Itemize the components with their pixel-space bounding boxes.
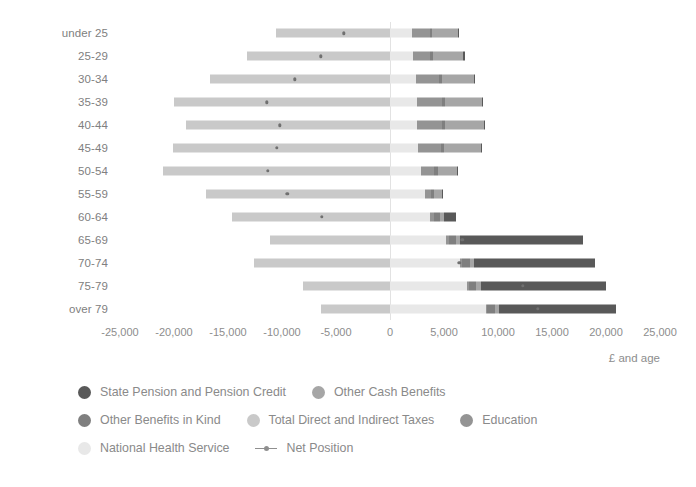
stacked-bar <box>120 258 660 267</box>
bar-segment <box>206 189 390 198</box>
bar-segment <box>390 144 418 153</box>
bar-segment <box>232 212 390 221</box>
legend-swatch-icon <box>78 442 91 455</box>
bar-segment <box>484 121 485 130</box>
stacked-bar <box>120 75 660 84</box>
stacked-bar <box>120 144 660 153</box>
stacked-bar <box>120 189 660 198</box>
bar-segment <box>421 166 434 175</box>
legend-label: Net Position <box>286 441 353 455</box>
legend-item[interactable]: Education <box>460 413 537 427</box>
legend-item[interactable]: State Pension and Pension Credit <box>78 385 286 399</box>
bar-row: 65-69 <box>120 228 660 251</box>
bar-segment <box>276 29 390 38</box>
legend-swatch-icon <box>78 386 91 399</box>
bar-segment <box>390 258 460 267</box>
axis-title: £ and age <box>609 352 660 364</box>
legend-item[interactable]: National Health Service <box>78 441 229 455</box>
bar-segment <box>460 235 583 244</box>
stacked-bar <box>120 281 660 290</box>
bar-segment <box>474 258 595 267</box>
bar-segment <box>425 189 431 198</box>
y-axis-label: 75-79 <box>78 280 108 292</box>
y-axis-label: 25-29 <box>78 50 108 62</box>
bar-segment <box>390 52 413 61</box>
y-axis-label: 40-44 <box>78 119 108 131</box>
bar-row: 40-44 <box>120 114 660 137</box>
bar-row: over 79 <box>120 297 660 320</box>
bar-segment <box>254 258 390 267</box>
legend-label: Other Benefits in Kind <box>100 413 221 427</box>
y-axis-label: 35-39 <box>78 96 108 108</box>
bar-segment <box>390 29 412 38</box>
bar-segment <box>445 121 484 130</box>
legend-swatch-icon <box>78 414 91 427</box>
stacked-bar <box>120 121 660 130</box>
bar-row: 60-64 <box>120 205 660 228</box>
bar-segment <box>303 281 390 290</box>
bar-segment <box>186 121 390 130</box>
x-axis-tick-label: 25,000 <box>643 326 677 338</box>
stacked-bar <box>120 29 660 38</box>
bar-segment <box>438 166 457 175</box>
y-axis-label: 70-74 <box>78 257 108 269</box>
chart-container: under 2525-2930-3435-3940-4445-4950-5455… <box>0 0 696 487</box>
stacked-bar <box>120 98 660 107</box>
bar-segment <box>433 52 463 61</box>
x-axis-tick-label: -25,000 <box>101 326 138 338</box>
bar-segment <box>457 166 458 175</box>
legend-item[interactable]: Net Position <box>255 441 353 455</box>
bar-row: 75-79 <box>120 274 660 297</box>
legend-row: National Health ServiceNet Position <box>78 434 658 462</box>
legend-label: Total Direct and Indirect Taxes <box>269 413 435 427</box>
stacked-bar <box>120 52 660 61</box>
bar-segment <box>434 189 442 198</box>
x-axis-tick-label: 0 <box>387 326 393 338</box>
bar-segment <box>321 304 390 313</box>
bar-segment <box>482 98 483 107</box>
legend-row: State Pension and Pension CreditOther Ca… <box>78 378 658 406</box>
bar-segment <box>481 281 606 290</box>
y-axis-label: 50-54 <box>78 165 108 177</box>
bar-segment <box>463 52 464 61</box>
stacked-bar <box>120 212 660 221</box>
bar-segment <box>390 121 417 130</box>
legend-item[interactable]: Other Benefits in Kind <box>78 413 221 427</box>
bar-segment <box>390 189 425 198</box>
bar-segment <box>270 235 390 244</box>
bar-segment <box>444 212 456 221</box>
x-axis-tick-label: 10,000 <box>481 326 515 338</box>
y-axis-label: 65-69 <box>78 234 108 246</box>
bar-segment <box>413 52 430 61</box>
bar-segment <box>390 212 430 221</box>
y-axis-label: over 79 <box>69 303 108 315</box>
y-axis-label: 45-49 <box>78 142 108 154</box>
bar-segment <box>390 304 486 313</box>
bar-segment <box>487 304 495 313</box>
bar-segment <box>390 166 421 175</box>
bar-segment <box>445 98 482 107</box>
y-axis-label: 30-34 <box>78 73 108 85</box>
bar-segment <box>390 281 467 290</box>
legend-label: Other Cash Benefits <box>334 385 446 399</box>
bar-segment <box>412 29 430 38</box>
bar-segment <box>173 144 390 153</box>
bar-row: 25-29 <box>120 45 660 68</box>
bar-segment <box>474 75 475 84</box>
legend-item[interactable]: Other Cash Benefits <box>312 385 446 399</box>
x-axis-tick-label: -5,000 <box>320 326 351 338</box>
stacked-bar <box>120 166 660 175</box>
x-axis: -25,000-20,000-15,000-10,000-5,00005,000… <box>120 326 660 342</box>
bar-segment <box>174 98 390 107</box>
bar-segment <box>442 189 443 198</box>
legend-label: Education <box>482 413 537 427</box>
bar-segment <box>499 304 616 313</box>
stacked-bar <box>120 304 660 313</box>
legend-swatch-icon <box>312 386 325 399</box>
bar-segment <box>390 75 416 84</box>
bar-segment <box>390 235 446 244</box>
legend-item[interactable]: Total Direct and Indirect Taxes <box>247 413 435 427</box>
bar-segment <box>163 166 390 175</box>
bar-segment <box>418 144 441 153</box>
y-axis-label: under 25 <box>62 27 108 39</box>
